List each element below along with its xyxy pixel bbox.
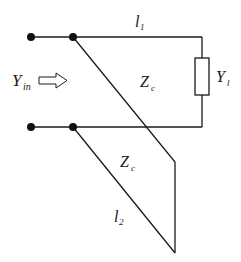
label-y-in: Y in [12,71,31,92]
svg-text:2: 2 [119,217,124,227]
junction-node-bottom [69,123,77,131]
terminal-node-top-left [27,33,35,41]
label-l2: l 2 [114,208,124,227]
label-zc-line1: Z c [140,73,155,93]
svg-text:c: c [131,163,135,173]
svg-text:Z: Z [120,153,130,170]
svg-text:Y: Y [12,71,23,90]
circuit-diagram: Y in l 1 Z c Y l Z c l 2 [0,0,241,262]
svg-text:l: l [227,78,230,88]
svg-text:c: c [151,83,155,93]
stub-lower-conductor [73,127,175,253]
input-arrow-icon [39,73,67,88]
label-l1: l 1 [135,13,145,32]
svg-text:1: 1 [140,22,145,32]
svg-text:in: in [23,81,31,92]
junction-node-top [69,33,77,41]
load-admittance-box [195,58,209,95]
svg-text:Z: Z [140,73,150,90]
terminal-node-bottom-left [27,123,35,131]
label-zc-stub: Z c [120,153,135,173]
svg-text:Y: Y [216,68,227,85]
label-y-l: Y l [216,68,230,88]
